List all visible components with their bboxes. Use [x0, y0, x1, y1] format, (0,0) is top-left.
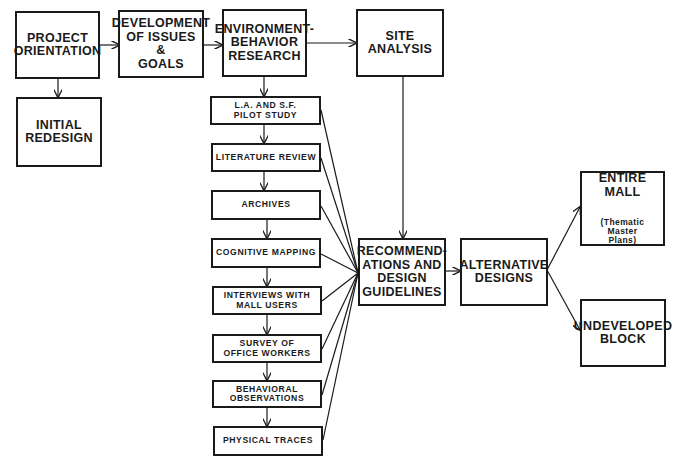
box-behavioral-observations: BEHAVIORAL OBSERVATIONS — [212, 380, 322, 408]
undeveloped-block-label: UNDEVELOPED BLOCK — [574, 320, 672, 347]
alternative-designs-label: ALTERNATIVE DESIGNS — [460, 259, 549, 286]
box-project-orientation: PROJECT ORIENTATION — [15, 11, 100, 79]
site-analysis-label: SITE ANALYSIS — [368, 30, 432, 57]
interviews-label: INTERVIEWS WITH MALL USERS — [224, 291, 311, 310]
box-recommendations-design-guidelines: RECOMMEND- ATIONS AND DESIGN GUIDELINES — [358, 238, 446, 306]
literature-review-label: LITERATURE REVIEW — [216, 153, 316, 162]
box-site-analysis: SITE ANALYSIS — [356, 9, 444, 77]
recommendations-label: RECOMMEND- ATIONS AND DESIGN GUIDELINES — [357, 245, 448, 299]
box-environment-behavior-research: ENVIRONMENT- BEHAVIOR RESEARCH — [222, 9, 307, 77]
survey-label: SURVEY OF OFFICE WORKERS — [223, 339, 310, 358]
cognitive-mapping-label: COGNITIVE MAPPING — [216, 248, 316, 257]
box-survey-of-office-workers: SURVEY OF OFFICE WORKERS — [212, 334, 322, 363]
box-pilot-study: L.A. AND S.F. PILOT STUDY — [210, 96, 321, 125]
box-physical-traces: PHYSICAL TRACES — [213, 426, 323, 456]
pilot-study-label: L.A. AND S.F. PILOT STUDY — [234, 101, 297, 120]
issues-goals-label: DEVELOPMENT OF ISSUES & GOALS — [112, 17, 210, 71]
box-archives: ARCHIVES — [211, 190, 321, 220]
box-undeveloped-block: UNDEVELOPED BLOCK — [580, 299, 666, 367]
archives-label: ARCHIVES — [241, 200, 290, 209]
box-initial-redesign: INITIAL REDESIGN — [16, 97, 102, 167]
initial-redesign-label: INITIAL REDESIGN — [25, 119, 93, 146]
eb-research-label: ENVIRONMENT- BEHAVIOR RESEARCH — [215, 23, 314, 64]
box-literature-review: LITERATURE REVIEW — [211, 143, 321, 172]
box-development-of-issues-goals: DEVELOPMENT OF ISSUES & GOALS — [118, 10, 204, 78]
box-cognitive-mapping: COGNITIVE MAPPING — [211, 238, 321, 268]
box-alternative-designs: ALTERNATIVE DESIGNS — [460, 238, 548, 306]
box-interviews-with-mall-users: INTERVIEWS WITH MALL USERS — [212, 286, 322, 315]
physical-traces-label: PHYSICAL TRACES — [223, 436, 313, 445]
behavioral-observations-label: BEHAVIORAL OBSERVATIONS — [230, 385, 305, 404]
project-orientation-label: PROJECT ORIENTATION — [14, 32, 102, 59]
thematic-master-plans-note: (Thematic Master Plans) — [599, 218, 647, 246]
box-entire-mall: ENTIRE MALL (Thematic Master Plans) — [580, 171, 665, 246]
entire-mall-label: ENTIRE MALL — [599, 172, 647, 199]
connector-lines — [0, 0, 675, 468]
